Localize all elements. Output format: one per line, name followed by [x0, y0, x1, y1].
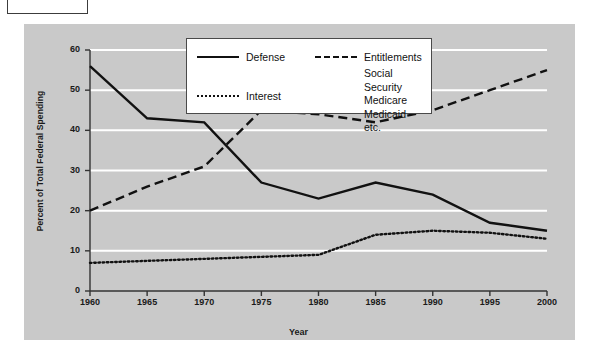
x-tick-label: 1990 — [411, 297, 455, 307]
legend-column-right: Entitlements Social Security Medicare Me… — [315, 47, 427, 135]
legend-item-interest: Interest — [197, 86, 307, 106]
legend-label-interest: Interest — [246, 90, 281, 103]
solid-line-icon — [197, 52, 239, 62]
x-axis-label: Year — [0, 327, 597, 337]
y-tick-label: 60 — [54, 44, 80, 54]
chart-legend: Defense Interest Entitlements Social Sec… — [186, 38, 432, 114]
series-line-interest — [90, 231, 547, 263]
x-tick-label: 1965 — [125, 297, 169, 307]
legend-label-defense: Defense — [246, 51, 285, 64]
legend-item-defense: Defense — [197, 47, 307, 67]
dashed-line-icon — [315, 52, 357, 62]
x-tick-label: 1975 — [239, 297, 283, 307]
dotted-line-icon — [197, 91, 239, 101]
x-tick-label: 1980 — [297, 297, 341, 307]
y-tick-label: 0 — [54, 285, 80, 295]
y-tick-label: 40 — [54, 124, 80, 134]
chart-figure: 0102030405060 19601965197019751980198519… — [0, 0, 597, 363]
legend-sublabel-medicare: Medicare — [364, 94, 427, 108]
legend-item-entitlements: Entitlements — [315, 47, 427, 67]
x-tick-label: 1970 — [182, 297, 226, 307]
x-tick-label: 1985 — [354, 297, 398, 307]
y-axis-label: Percent of Total Federal Spending — [35, 61, 45, 261]
x-tick-label: 1960 — [68, 297, 112, 307]
legend-label-entitlements: Entitlements — [364, 51, 422, 64]
x-tick-label: 2000 — [525, 297, 569, 307]
legend-sublabel-social-security: Social Security — [364, 67, 427, 94]
legend-sublabel-etc: etc. — [364, 121, 427, 135]
legend-column-left: Defense Interest — [197, 47, 307, 106]
y-tick-label: 20 — [54, 205, 80, 215]
x-tick-label: 1995 — [468, 297, 512, 307]
y-tick-label: 10 — [54, 245, 80, 255]
legend-sublabel-medicaid: Medicaid — [364, 108, 427, 122]
y-tick-label: 30 — [54, 165, 80, 175]
y-tick-label: 50 — [54, 84, 80, 94]
